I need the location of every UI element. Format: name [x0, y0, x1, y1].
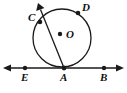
- point-e-label: E: [21, 72, 28, 83]
- circle-outline: [33, 9, 91, 67]
- point-a-label: A: [60, 72, 67, 83]
- point-d-dot: [76, 11, 81, 16]
- center-o-label: O: [66, 29, 74, 40]
- geometry-figure: C D E A B O: [0, 0, 127, 93]
- point-b-dot: [102, 66, 106, 70]
- point-e-dot: [23, 66, 27, 70]
- center-o-dot: [58, 32, 62, 36]
- left-arrowhead-icon: [3, 64, 11, 71]
- right-arrowhead-icon: [116, 64, 124, 71]
- point-c-label: C: [28, 12, 35, 23]
- point-c-dot: [38, 20, 43, 25]
- secant-ray-segment: [41, 10, 65, 69]
- point-b-label: B: [100, 72, 107, 83]
- point-d-label: D: [82, 2, 90, 13]
- point-a-dot: [62, 66, 67, 71]
